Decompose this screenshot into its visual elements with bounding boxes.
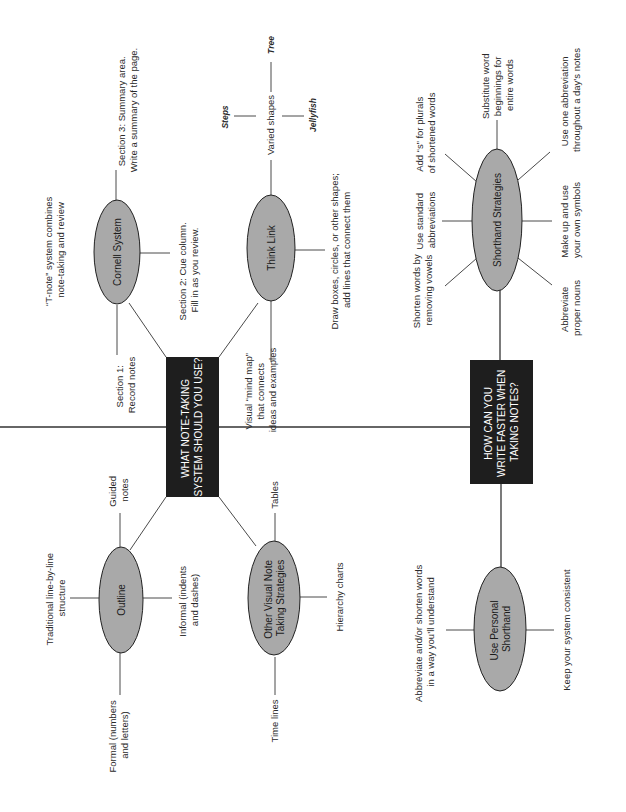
svg-text:Section 1: Record notes: Section 1: Record notes bbox=[114, 357, 137, 414]
personal-label-line1: Use Personal bbox=[489, 600, 500, 660]
node-shorthand-strategies: Shorthand Strategies Shorten words by re… bbox=[411, 48, 582, 336]
outline-traditional-line1: Traditional line-by-line bbox=[44, 553, 55, 646]
svg-text:Draw boxes, circles, or other: Draw boxes, circles, or other shapes; ad… bbox=[329, 171, 352, 330]
shorthand-vowels-line1: Shorten words by bbox=[411, 254, 422, 328]
connector bbox=[130, 497, 166, 550]
svg-text:Section 2: Cue column. F: Section 2: Cue column. Fill in as you re… bbox=[177, 220, 200, 321]
svg-text:Use standard abbreviatio: Use standard abbreviations bbox=[414, 190, 437, 249]
outline-guided-line2: notes bbox=[119, 478, 130, 501]
svg-text:Shorten words by removin: Shorten words by removing vowels bbox=[411, 252, 434, 329]
svg-text:Add “s” for plurals of s: Add “s” for plurals of shortened words bbox=[414, 92, 437, 173]
shorthand-symbols-line2: your own symbols bbox=[571, 182, 582, 258]
svg-text:Make up and use your own: Make up and use your own symbols bbox=[559, 182, 582, 258]
othervisual-hierarchy: Hierarchy charts bbox=[334, 562, 345, 631]
svg-text:“T-note” system combines: “T-note” system combines note-taking and… bbox=[43, 194, 66, 306]
shorthand-plurals-line2: of shortened words bbox=[426, 92, 437, 173]
shorthand-oneabbr-line2: throughout a day’s notes bbox=[571, 48, 582, 152]
node-other-visual-strategies: Other Visual Note Taking Strategies Tabl… bbox=[248, 481, 345, 742]
shorthand-symbols-line1: Make up and use bbox=[559, 185, 570, 258]
shorthand-label: Shorthand Strategies bbox=[492, 173, 503, 267]
svg-text:Use Personal Shorthand: Use Personal Shorthand bbox=[489, 598, 512, 661]
connector bbox=[445, 154, 477, 182]
outline-informal-line2: and dashes) bbox=[189, 574, 200, 626]
thinklink-draw-line1: Draw boxes, circles, or other shapes; bbox=[329, 173, 340, 329]
cornell-section1-line2: Record notes bbox=[126, 357, 137, 414]
hub-write-faster: HOW CAN YOU WRITE FASTER WHEN TAKING NOT… bbox=[470, 360, 533, 484]
mind-map-diagram: WHAT NOTE-TAKING SYSTEM SHOULD YOU USE? … bbox=[0, 0, 626, 812]
shorthand-proper-line1: Abbreviate bbox=[559, 287, 570, 332]
thinklink-tree: Tree bbox=[266, 36, 276, 54]
svg-text:Guided notes: Guided notes bbox=[107, 473, 130, 506]
shorthand-proper-line2: proper nouns bbox=[571, 280, 582, 336]
hub2-line2: WRITE FASTER WHEN bbox=[496, 370, 507, 477]
node-outline: Outline Traditional line-by-line structu… bbox=[44, 473, 200, 772]
node-use-personal-shorthand: Use Personal Shorthand Abbreviate and/or… bbox=[413, 562, 572, 702]
thinklink-draw-line2: add lines that connect them bbox=[341, 192, 352, 308]
connector bbox=[129, 303, 166, 357]
shorthand-standard-line1: Use standard bbox=[414, 193, 425, 250]
shorthand-plurals-line1: Add “s” for plurals bbox=[414, 97, 425, 172]
svg-text:Abbreviate and/or shorten word: Abbreviate and/or shorten words in a way… bbox=[413, 562, 436, 702]
thinklink-varied-shapes: Varied shapes bbox=[265, 95, 276, 155]
svg-text:Section 3: Summary area.: Section 3: Summary area. Write a summary… bbox=[116, 48, 139, 172]
outline-guided-line1: Guided bbox=[107, 476, 118, 507]
thinklink-jellyfish: Jellyfish bbox=[308, 98, 318, 132]
outline-traditional-line2: structure bbox=[56, 580, 67, 617]
cornell-section3-line1: Section 3: Summary area. bbox=[116, 56, 127, 166]
thinklink-label: Think Link bbox=[266, 224, 277, 271]
personal-abbreviate-line2: in a way you’ll understand bbox=[425, 577, 436, 686]
cornell-section2-line2: Fill in as you review. bbox=[189, 227, 200, 312]
outline-formal-line1: Formal (numbers bbox=[107, 700, 118, 773]
personal-abbreviate-line1: Abbreviate and/or shorten words bbox=[413, 564, 424, 702]
thinklink-mindmap-line3: ideas and examples bbox=[267, 348, 278, 433]
shorthand-vowels-line2: removing vowels bbox=[423, 254, 434, 325]
connector bbox=[518, 258, 552, 285]
hub2-line3: TAKING NOTES? bbox=[509, 382, 520, 462]
personal-consistent: Keep your system consistent bbox=[561, 569, 572, 691]
hub2-line1: HOW CAN YOU bbox=[483, 387, 494, 460]
connector bbox=[219, 303, 258, 357]
shorthand-standard-line2: abbreviations bbox=[426, 191, 437, 248]
svg-text:Traditional line-by-line: Traditional line-by-line structure bbox=[44, 550, 67, 645]
svg-text:Other Visual Note Taking: Other Visual Note Taking Strategies bbox=[263, 557, 286, 639]
thinklink-steps: Steps bbox=[220, 105, 230, 128]
connector bbox=[445, 258, 477, 286]
svg-text:Informal (indents and da: Informal (indents and dashes) bbox=[177, 563, 200, 636]
outline-label: Outline bbox=[116, 584, 127, 616]
svg-text:Abbreviate proper nouns: Abbreviate proper nouns bbox=[559, 280, 582, 336]
othervisual-label-line2: Taking Strategies bbox=[275, 560, 286, 637]
othervisual-timelines: Time lines bbox=[269, 699, 280, 742]
hub-note-taking-system: WHAT NOTE-TAKING SYSTEM SHOULD YOU USE? bbox=[166, 357, 219, 497]
thinklink-mindmap-line1: Visual “mind map” bbox=[243, 353, 254, 429]
shorthand-substitute-line3: entire words bbox=[504, 59, 515, 111]
othervisual-tables: Tables bbox=[269, 481, 280, 509]
outline-formal-line2: and letters) bbox=[119, 711, 130, 759]
hub1-line2: SYSTEM SHOULD YOU USE? bbox=[193, 357, 204, 496]
othervisual-label-line1: Other Visual Note bbox=[263, 560, 274, 639]
personal-label-line2: Shorthand bbox=[501, 606, 512, 652]
outline-informal-line1: Informal (indents bbox=[177, 566, 188, 637]
cornell-tnote-line2: note-taking and review bbox=[55, 202, 66, 298]
shorthand-substitute-line1: Substitute word bbox=[480, 54, 491, 119]
svg-text:Formal (numbers and lett: Formal (numbers and letters) bbox=[107, 698, 130, 773]
hub1-line1: WHAT NOTE-TAKING bbox=[180, 379, 191, 478]
shorthand-substitute-line2: beginnings for bbox=[492, 56, 503, 116]
svg-text:Visual “mind map” that c: Visual “mind map” that connects ideas an… bbox=[243, 348, 278, 433]
cornell-section3-line2: Write a summary of the page. bbox=[128, 48, 139, 172]
cornell-tnote-line1: “T-note” system combines bbox=[43, 196, 54, 306]
connector bbox=[518, 152, 550, 180]
cornell-label: Cornell System bbox=[112, 218, 123, 286]
thinklink-mindmap-line2: that connects bbox=[255, 363, 266, 420]
cornell-section2-line1: Section 2: Cue column. bbox=[177, 222, 188, 320]
node-think-link: Think Link Varied shapes Steps Tree Jell… bbox=[220, 36, 352, 432]
cornell-section1-line1: Section 1: bbox=[114, 365, 125, 407]
svg-text:Use one abbreviation thr: Use one abbreviation throughout a day’s … bbox=[559, 48, 582, 152]
shorthand-oneabbr-line1: Use one abbreviation bbox=[559, 56, 570, 146]
svg-text:Substitute word beginnin: Substitute word beginnings for entire wo… bbox=[480, 51, 515, 119]
connector bbox=[219, 497, 256, 546]
